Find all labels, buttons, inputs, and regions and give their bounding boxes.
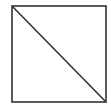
square-diagram <box>0 0 111 108</box>
diagonal-line <box>12 6 106 102</box>
